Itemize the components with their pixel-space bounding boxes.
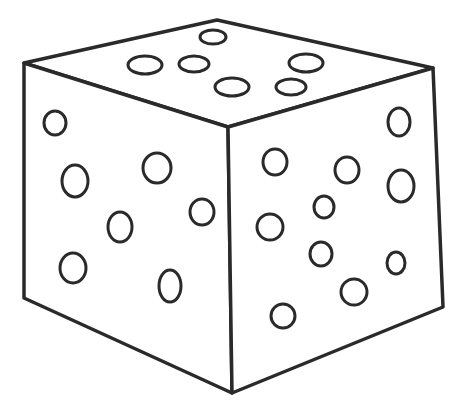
die-drawing xyxy=(0,0,471,416)
pip-left xyxy=(143,153,171,183)
pip-left xyxy=(60,253,86,283)
pip-right xyxy=(387,252,405,274)
pip-left xyxy=(62,165,88,197)
pip-right xyxy=(271,304,295,328)
pip-left xyxy=(108,212,132,242)
pip-right xyxy=(341,279,367,305)
pip-top xyxy=(179,56,209,72)
pip-top xyxy=(200,30,226,44)
pip-top xyxy=(289,54,323,72)
pip-right xyxy=(335,157,359,183)
pip-right xyxy=(388,170,414,202)
pip-left xyxy=(44,111,66,135)
pip-right xyxy=(388,108,410,136)
die-faces xyxy=(24,20,443,393)
pip-top xyxy=(276,79,306,95)
pip-left xyxy=(159,270,181,302)
pip-right xyxy=(310,242,332,266)
pip-top xyxy=(128,56,162,74)
pip-right xyxy=(314,196,334,218)
pip-right xyxy=(263,149,287,175)
pip-top xyxy=(215,78,249,96)
pip-right xyxy=(257,214,283,240)
pip-left xyxy=(190,199,214,225)
